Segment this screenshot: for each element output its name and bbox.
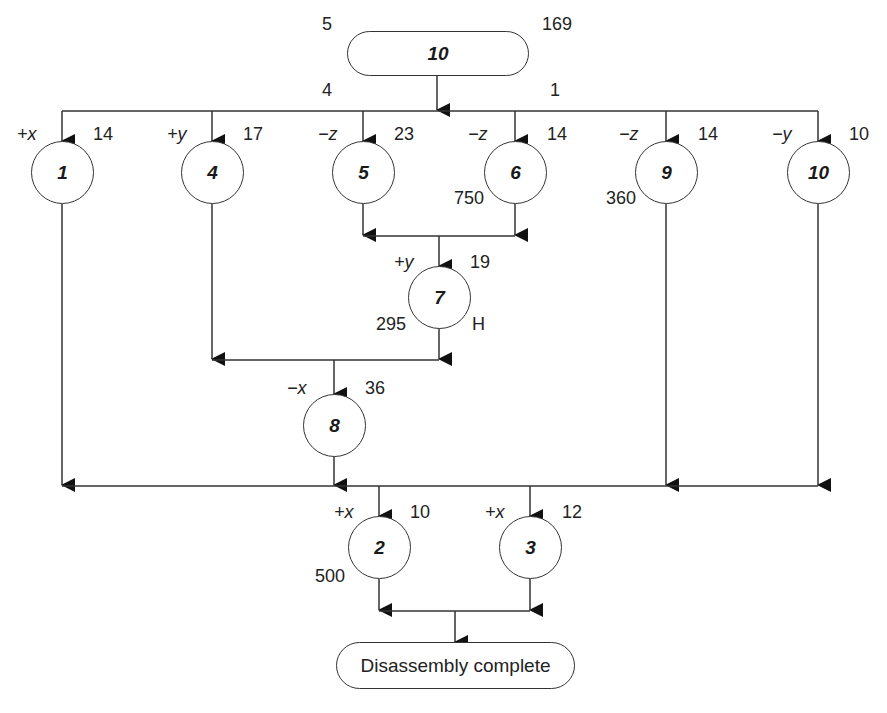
node-1-value: 14 xyxy=(93,124,113,144)
node-4-direction: +y xyxy=(167,124,187,144)
node-9-label: 9 xyxy=(661,162,672,184)
node-10: 10 xyxy=(787,141,850,204)
node-10-label: 10 xyxy=(808,162,829,184)
start-top-left-value: 5 xyxy=(322,14,332,34)
node-7-direction: +y xyxy=(394,252,414,272)
end-node: Disassembly complete xyxy=(336,642,575,689)
node-5-direction: −z xyxy=(318,124,338,144)
node-8-direction: −x xyxy=(287,378,307,398)
node-3-direction: +x xyxy=(485,502,505,522)
node-5: 5 xyxy=(332,141,395,204)
node-3: 3 xyxy=(499,516,562,579)
node-6-value: 14 xyxy=(547,124,567,144)
node-6-extra-value: 750 xyxy=(454,188,484,208)
node-8-value: 36 xyxy=(365,378,385,398)
node-9: 9 xyxy=(635,141,698,204)
start-node-label: 10 xyxy=(427,43,448,65)
node-2-extra-value: 500 xyxy=(315,566,345,586)
node-7: 7 xyxy=(408,266,471,329)
node-5-value: 23 xyxy=(394,124,414,144)
node-6: 6 xyxy=(484,141,547,204)
node-3-value: 12 xyxy=(562,502,582,522)
node-2-value: 10 xyxy=(410,502,430,522)
node-2-direction: +x xyxy=(334,502,354,522)
node-3-label: 3 xyxy=(525,537,536,559)
node-1: 1 xyxy=(31,141,94,204)
node-7-extra-value: 295 xyxy=(376,314,406,334)
start-top-right-value: 169 xyxy=(542,14,572,34)
node-10-direction: −y xyxy=(772,124,792,144)
node-7-label: 7 xyxy=(434,287,445,309)
node-2: 2 xyxy=(348,516,411,579)
node-8-label: 8 xyxy=(329,415,340,437)
node-7-extra-right: H xyxy=(472,314,485,334)
node-5-label: 5 xyxy=(358,162,369,184)
end-node-label: Disassembly complete xyxy=(360,655,550,677)
connector-lines xyxy=(0,0,887,713)
node-7-value: 19 xyxy=(470,252,490,272)
node-2-label: 2 xyxy=(374,537,385,559)
node-9-direction: −z xyxy=(619,124,639,144)
node-9-value: 14 xyxy=(698,124,718,144)
node-1-direction: +x xyxy=(17,124,37,144)
node-1-label: 1 xyxy=(57,162,68,184)
node-9-extra-value: 360 xyxy=(606,188,636,208)
node-4-value: 17 xyxy=(243,124,263,144)
start-node: 10 xyxy=(347,31,529,76)
node-8: 8 xyxy=(303,394,366,457)
node-6-direction: −z xyxy=(468,124,488,144)
node-4-label: 4 xyxy=(207,162,218,184)
start-bottom-left-value: 4 xyxy=(322,80,332,100)
node-10-value: 10 xyxy=(849,124,869,144)
node-4: 4 xyxy=(181,141,244,204)
start-bottom-right-value: 1 xyxy=(550,80,560,100)
node-6-label: 6 xyxy=(510,162,521,184)
